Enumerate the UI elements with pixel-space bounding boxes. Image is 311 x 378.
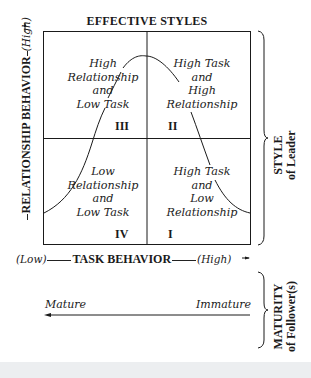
maturity-of-followers-label: MATURITY of Follower(s) — [272, 281, 298, 352]
style-bracket — [258, 31, 268, 245]
y-axis-label: (Low)RELATIONSHIP BEHAVIOR(High) — [19, 17, 34, 250]
quadrant-iv-numeral: IV — [115, 227, 128, 242]
quadrant-iii-numeral: III — [115, 119, 129, 134]
maturity-right-label: Immature — [196, 298, 251, 311]
quadrant-i-text: High Task and Low Relationship — [158, 165, 246, 219]
arrow-right-icon — [245, 257, 250, 260]
quadrant-grid — [0, 0, 311, 378]
style-of-leader-label: STYLE of Leader — [272, 130, 298, 180]
arrow-left-icon — [44, 313, 51, 317]
y-axis-high: (High) — [20, 17, 32, 51]
maturity-bracket — [258, 272, 268, 348]
quadrant-ii-text: High Task and High Relationship — [158, 57, 246, 111]
quadrant-iii-text: High Relationship and Low Task — [58, 57, 148, 111]
style-label-line2: of Leader — [285, 130, 298, 180]
maturity-left-label: Mature — [45, 298, 86, 311]
x-axis-title: TASK BEHAVIOR — [72, 252, 171, 266]
quadrant-ii-numeral: II — [168, 119, 177, 134]
x-axis-high: (High) — [197, 253, 231, 265]
x-axis-label: (Low)TASK BEHAVIOR(High) — [16, 252, 231, 267]
footer-strip — [0, 362, 311, 378]
quadrant-iv-text: Low Relationship and Low Task — [58, 165, 148, 219]
y-axis-title: RELATIONSHIP BEHAVIOR — [19, 56, 33, 213]
quadrant-i-numeral: I — [168, 227, 173, 242]
maturity-label-line2: of Follower(s) — [285, 281, 298, 352]
x-axis-low: (Low) — [16, 253, 46, 265]
